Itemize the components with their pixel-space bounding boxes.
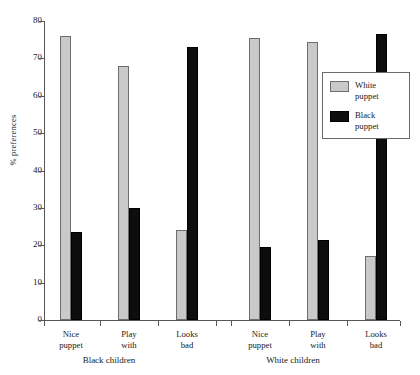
- y-axis-title: % preferences: [8, 80, 18, 200]
- y-axis-tick-label: 30: [33, 202, 42, 212]
- legend-swatch-black-puppet-icon: [330, 111, 349, 122]
- bar-white-puppet: [249, 38, 260, 320]
- y-axis-tick-label: 20: [33, 239, 42, 249]
- x-axis-tick-mark: [231, 321, 232, 326]
- bar-white-puppet: [118, 66, 129, 320]
- legend-label-black-puppet: Black puppet: [355, 110, 379, 131]
- legend-item-white-puppet: White puppet: [330, 80, 401, 101]
- bar-black-puppet: [187, 47, 198, 320]
- x-axis-tick-mark: [100, 321, 101, 326]
- y-axis-tick-label: 10: [33, 277, 42, 287]
- y-axis-tick-label: 60: [33, 90, 42, 100]
- bar-chart-figure: % preferences 80706050403020100 Nicepupp…: [0, 0, 420, 375]
- bar-white-puppet: [176, 230, 187, 320]
- x-axis-label: Playwith: [97, 329, 161, 351]
- bar-black-puppet: [129, 208, 140, 320]
- x-axis-tick-mark: [289, 321, 290, 326]
- y-axis-tick-label: 40: [33, 165, 42, 175]
- x-axis-tick-mark: [400, 321, 401, 326]
- y-axis-tick-label: 70: [33, 52, 42, 62]
- x-axis-tick-mark: [158, 321, 159, 326]
- y-axis-tick-label: 80: [33, 15, 42, 25]
- x-axis-tick-mark: [44, 321, 45, 326]
- bar-black-puppet: [318, 240, 329, 320]
- legend-swatch-white-puppet-icon: [330, 81, 349, 92]
- plot-area: [44, 21, 400, 320]
- x-axis-label: Nicepuppet: [228, 329, 292, 351]
- group-label-white-children: White children: [218, 355, 368, 365]
- legend: White puppet Black puppet: [322, 72, 410, 139]
- x-axis-label: Playwith: [286, 329, 350, 351]
- x-axis-label: Nicepuppet: [39, 329, 103, 351]
- bar-white-puppet: [365, 256, 376, 320]
- legend-label-white-puppet: White puppet: [355, 80, 379, 101]
- group-label-black-children: Black children: [34, 355, 184, 365]
- x-axis-tick-mark: [347, 321, 348, 326]
- bar-black-puppet: [260, 247, 271, 320]
- x-axis-tick-mark: [216, 321, 217, 326]
- bar-black-puppet: [71, 232, 82, 320]
- legend-item-black-puppet: Black puppet: [330, 110, 401, 131]
- bar-white-puppet: [307, 42, 318, 320]
- x-axis-label: Looksbad: [155, 329, 219, 351]
- x-axis-label: Looksbad: [344, 329, 408, 351]
- bar-white-puppet: [60, 36, 71, 320]
- y-axis-tick-label: 50: [33, 127, 42, 137]
- y-axis-tick-label: 0: [38, 314, 43, 324]
